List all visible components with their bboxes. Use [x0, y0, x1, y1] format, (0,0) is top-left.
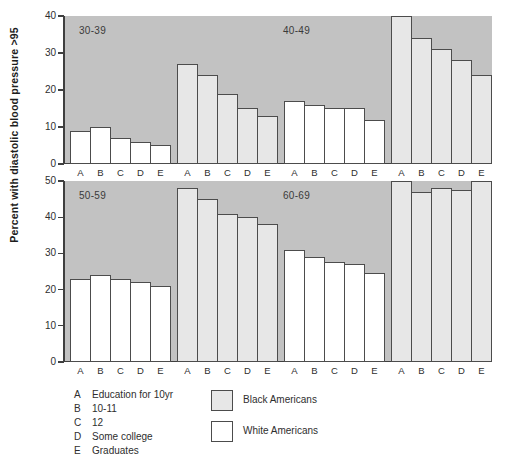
bar	[257, 116, 278, 164]
bar	[70, 131, 91, 164]
age-label: 30-39	[79, 25, 106, 36]
white-americans-label: White Americans	[243, 425, 318, 436]
category-label: A	[70, 167, 91, 178]
category-label: A	[177, 167, 198, 178]
category-label: D	[344, 167, 365, 178]
axis-tick-mark	[58, 289, 64, 290]
bar	[197, 75, 218, 164]
bar	[237, 217, 258, 362]
category-label: B	[411, 365, 432, 376]
axis-tick-label: 20	[30, 284, 56, 295]
education-key-letter: E	[74, 444, 92, 458]
bar	[471, 181, 492, 362]
bar	[130, 282, 151, 362]
bar	[411, 192, 432, 362]
category-label: E	[364, 365, 385, 376]
axis-tick-label: 40	[30, 10, 56, 21]
category-label: C	[431, 167, 452, 178]
category-label: D	[130, 365, 151, 376]
education-key-label: 12	[92, 416, 103, 430]
axis-tick-mark	[58, 180, 64, 181]
axis-tick-mark	[58, 217, 64, 218]
white-americans-swatch	[211, 421, 233, 442]
bar	[177, 64, 198, 164]
axis-tick-mark	[58, 89, 64, 90]
y-axis-line	[63, 181, 65, 362]
age-label: 50-59	[79, 190, 106, 201]
category-label: D	[344, 365, 365, 376]
black-americans-swatch	[211, 390, 233, 411]
category-label: A	[391, 167, 412, 178]
bar	[284, 101, 305, 164]
category-label: B	[304, 365, 325, 376]
category-label: E	[257, 365, 278, 376]
category-label: D	[451, 365, 472, 376]
axis-tick-label: 0	[30, 356, 56, 367]
education-key-label: 10-11	[92, 402, 117, 416]
bar	[431, 49, 452, 164]
category-label: E	[364, 167, 385, 178]
education-key-letter: A	[74, 388, 92, 402]
bar	[304, 257, 325, 362]
bar	[451, 60, 472, 164]
education-key-row: D Some college	[74, 430, 173, 444]
education-key-label: Education for 10yr	[92, 388, 173, 402]
bar	[324, 108, 345, 164]
category-label: B	[197, 167, 218, 178]
education-key-row: C 12	[74, 416, 173, 430]
category-label: C	[110, 167, 131, 178]
education-key-row: A Education for 10yr	[74, 388, 173, 402]
category-label: C	[217, 167, 238, 178]
category-label: B	[411, 167, 432, 178]
bar	[364, 120, 385, 164]
black-americans-label: Black Americans	[243, 394, 317, 405]
category-label: B	[304, 167, 325, 178]
education-key: A Education for 10yr B 10-11 C 12 D Some…	[74, 388, 173, 458]
education-key-letter: C	[74, 416, 92, 430]
bar	[217, 94, 238, 164]
category-label: A	[391, 365, 412, 376]
category-label: E	[257, 167, 278, 178]
bar	[284, 250, 305, 362]
education-key-row: E Graduates	[74, 444, 173, 458]
education-key-label: Some college	[92, 430, 153, 444]
axis-tick-label: 0	[30, 158, 56, 169]
bar	[90, 275, 111, 362]
bar	[150, 286, 171, 362]
category-label: A	[70, 365, 91, 376]
axis-tick-label: 20	[30, 84, 56, 95]
education-key-label: Graduates	[92, 444, 139, 458]
category-label: C	[324, 365, 345, 376]
axis-tick-mark	[58, 52, 64, 53]
category-label: E	[150, 365, 171, 376]
category-label: D	[237, 167, 258, 178]
bar	[257, 224, 278, 362]
education-key-letter: D	[74, 430, 92, 444]
figure-blood-pressure-education: Percent with diastolic blood pressure >9…	[0, 0, 509, 470]
bar	[431, 188, 452, 362]
bar	[411, 38, 432, 164]
category-label: C	[217, 365, 238, 376]
category-label: B	[197, 365, 218, 376]
category-label: D	[237, 365, 258, 376]
axis-tick-label: 30	[30, 47, 56, 58]
bar	[150, 145, 171, 164]
category-label: D	[451, 167, 472, 178]
category-label: E	[471, 365, 492, 376]
axis-tick-label: 30	[30, 247, 56, 258]
bar	[197, 199, 218, 362]
category-label: E	[471, 167, 492, 178]
bar	[344, 108, 365, 164]
category-label: B	[90, 365, 111, 376]
bar	[304, 105, 325, 164]
axis-tick-mark	[58, 15, 64, 16]
age-label: 40-49	[283, 25, 310, 36]
category-label: A	[284, 365, 305, 376]
bar	[90, 127, 111, 164]
category-label: A	[284, 167, 305, 178]
bar	[177, 188, 198, 362]
category-label: A	[177, 365, 198, 376]
bar	[237, 108, 258, 164]
bar	[324, 262, 345, 362]
axis-tick-mark	[58, 253, 64, 254]
